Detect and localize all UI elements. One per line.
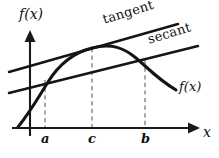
y-axis-arrow-icon <box>25 30 36 42</box>
y-axis-label: f(x) <box>19 7 43 21</box>
function-curve-label: f(x) <box>179 80 201 93</box>
x-axis-arrow-icon <box>188 123 200 134</box>
x-tick-label-b: b <box>141 132 150 145</box>
dashed-drop-lines <box>45 48 145 127</box>
figure-canvas: f(x) x tangent secant f(x) a c b <box>0 0 219 158</box>
x-tick-label-a: a <box>41 132 49 145</box>
x-tick-label-c: c <box>88 132 96 145</box>
x-axis-label: x <box>203 125 211 139</box>
